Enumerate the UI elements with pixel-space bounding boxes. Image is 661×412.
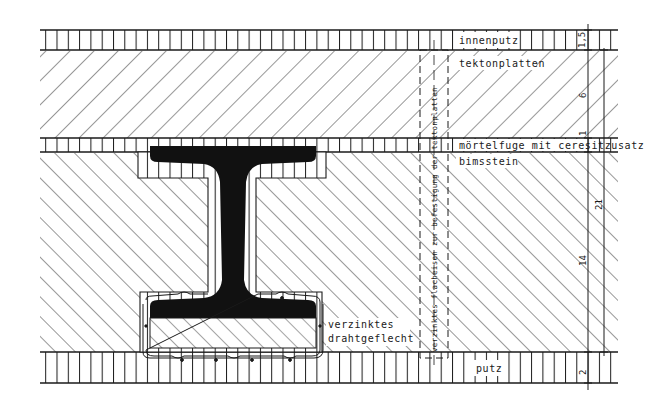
dim-tektonplatten: 6 — [578, 93, 588, 98]
dim-innenputz: 1,5 — [577, 32, 587, 48]
layer-putz — [40, 352, 618, 383]
label-tektonplatten: tektonplatten — [459, 58, 545, 69]
label-bimsstein: bimsstein — [459, 156, 519, 167]
flat-iron-note: verzinktes flacheisen zur befestigung de… — [430, 87, 439, 352]
label-innenputz: innenputz — [459, 35, 519, 46]
beam-encasement-block — [150, 318, 316, 348]
mesh-note-line1: verzinktes — [328, 319, 394, 330]
dim-putz: 2 — [578, 370, 588, 375]
dim-moertelfuge: 1 — [578, 131, 588, 136]
label-putz: putz — [476, 363, 502, 374]
label-moertelfuge: mörtelfuge mit ceresitzusatz — [459, 140, 644, 151]
mesh-note-line2: drahtgeflecht — [328, 333, 414, 344]
layer-innenputz — [40, 30, 618, 50]
dim-bimsstein: 14 — [578, 255, 588, 266]
mesh-note: verzinktes drahtgeflecht — [326, 318, 414, 346]
section-drawing: verzinktes flacheisen zur befestigung de… — [0, 0, 661, 412]
dim-wall-total: 21 — [594, 199, 604, 210]
flat-iron-strip: verzinktes flacheisen zur befestigung de… — [420, 40, 448, 365]
